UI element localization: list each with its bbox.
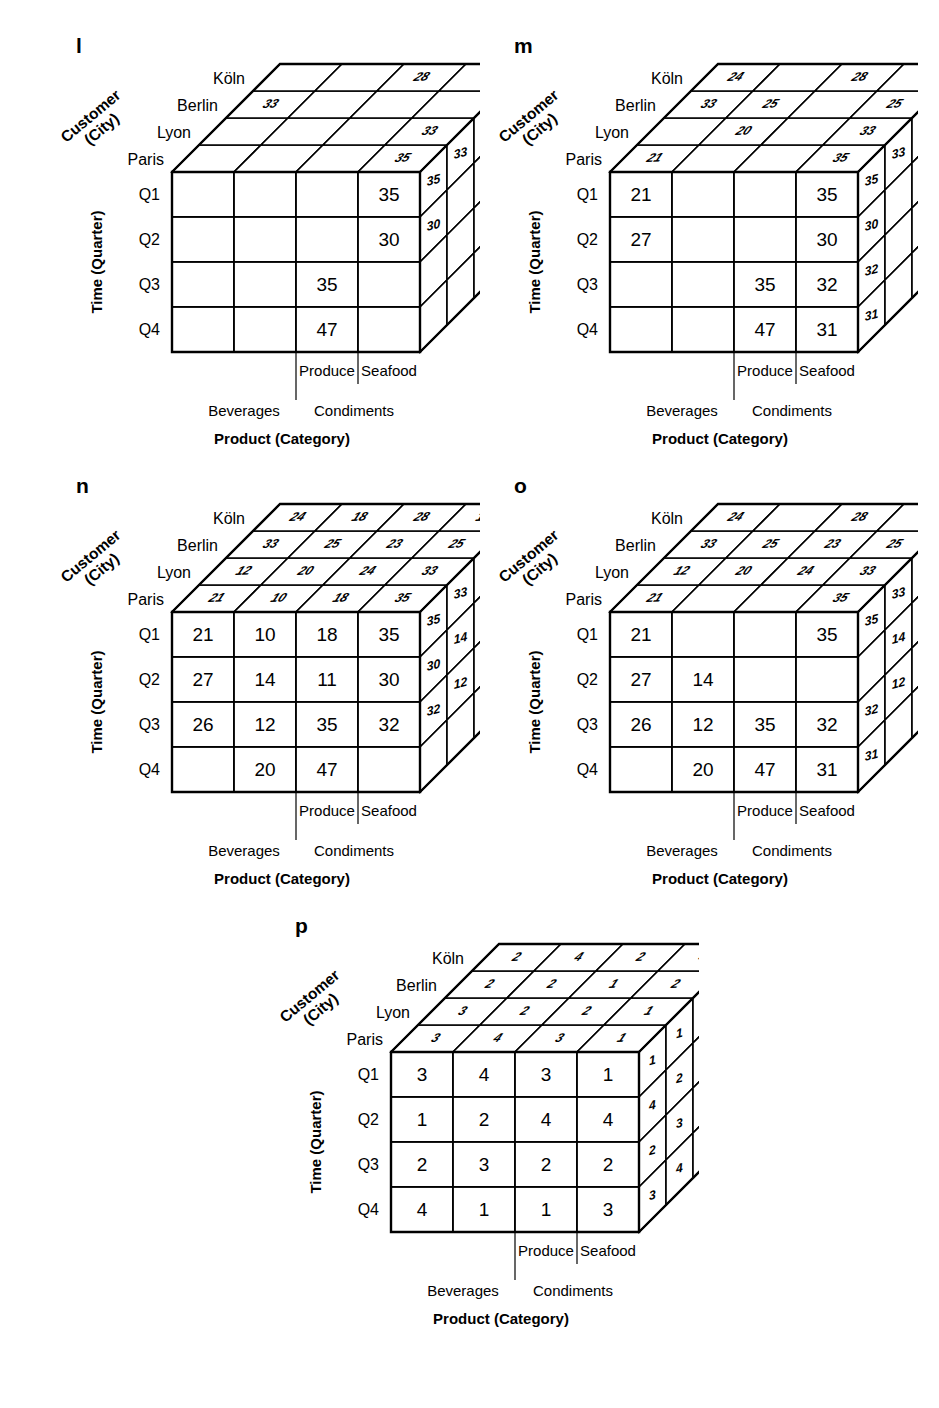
cube-svg-p: 3431322122122424142312342341413134311244… xyxy=(259,912,699,1352)
category-label-condiments: Condiments xyxy=(752,842,832,859)
front-face-value: 4 xyxy=(603,1109,614,1130)
front-cell xyxy=(172,747,234,792)
front-face-value: 27 xyxy=(630,669,651,690)
front-cell xyxy=(734,217,796,262)
front-cell xyxy=(358,307,420,352)
product-dimension-label: Product (Category) xyxy=(652,870,788,887)
front-face-value: 47 xyxy=(316,759,337,780)
front-face-value: 31 xyxy=(816,759,837,780)
category-label-condiments: Condiments xyxy=(314,842,394,859)
quarter-label: Q2 xyxy=(139,671,160,688)
cube-p: 3431322122122424142312342341413134311244… xyxy=(259,912,699,1352)
cube-l: 35333328353033233335303547Q1Q2Q3Q4KölnBe… xyxy=(40,32,480,472)
customer-dimension-label: Customer (City) xyxy=(57,86,134,159)
product-dimension-label: Product (Category) xyxy=(214,870,350,887)
city-label: Köln xyxy=(651,70,683,87)
front-cell xyxy=(172,307,234,352)
front-cell xyxy=(672,172,734,217)
cube-panel-l: l 35333328353033233335303547Q1Q2Q3Q4Köln… xyxy=(40,32,480,472)
quarter-label: Q3 xyxy=(577,716,598,733)
cube-m: 2135203333252524283530323133252320332135… xyxy=(478,32,918,472)
city-label: Paris xyxy=(347,1031,383,1048)
front-face-value: 2 xyxy=(603,1154,614,1175)
category-label-seafood: Seafood xyxy=(799,362,855,379)
front-face-value: 35 xyxy=(378,184,399,205)
category-label-seafood: Seafood xyxy=(361,802,417,819)
product-dimension-label: Product (Category) xyxy=(652,430,788,447)
front-face-value: 47 xyxy=(754,319,775,340)
quarter-label: Q1 xyxy=(139,186,160,203)
city-label: Lyon xyxy=(595,124,629,141)
category-label-produce: Produce xyxy=(737,802,793,819)
category-label-beverages: Beverages xyxy=(646,402,718,419)
quarter-label: Q4 xyxy=(139,321,160,338)
front-face-value: 12 xyxy=(692,714,713,735)
front-face-value: 18 xyxy=(316,624,337,645)
front-face-value: 21 xyxy=(630,624,651,645)
front-cell xyxy=(234,217,296,262)
front-cell xyxy=(358,747,420,792)
quarter-label: Q4 xyxy=(577,321,598,338)
category-label-produce: Produce xyxy=(518,1242,574,1259)
front-cell xyxy=(610,307,672,352)
city-label: Köln xyxy=(213,70,245,87)
city-label: Köln xyxy=(213,510,245,527)
front-face-value: 30 xyxy=(816,229,837,250)
cube-n: 2110183512202433332523252418281435303233… xyxy=(40,472,480,912)
quarter-label: Q1 xyxy=(358,1066,379,1083)
category-label-beverages: Beverages xyxy=(427,1282,499,1299)
front-face-value: 3 xyxy=(603,1199,614,1220)
front-face-value: 20 xyxy=(254,759,275,780)
front-face-value: 14 xyxy=(254,669,276,690)
quarter-label: Q3 xyxy=(577,276,598,293)
front-face-value: 4 xyxy=(541,1109,552,1130)
quarter-label: Q1 xyxy=(577,626,598,643)
quarter-label: Q2 xyxy=(139,231,160,248)
quarter-label: Q1 xyxy=(577,186,598,203)
side-face-value: 2 xyxy=(675,1070,684,1086)
customer-dimension-label: Customer (City) xyxy=(495,526,572,599)
city-label: Paris xyxy=(128,151,164,168)
quarter-label: Q2 xyxy=(577,231,598,248)
city-label: Berlin xyxy=(396,977,437,994)
front-cell xyxy=(610,262,672,307)
front-cell xyxy=(358,262,420,307)
front-face-value: 27 xyxy=(630,229,651,250)
front-face-value: 21 xyxy=(630,184,651,205)
city-label: Berlin xyxy=(177,537,218,554)
front-cell xyxy=(234,262,296,307)
cube-panel-n: n 21101835122024333325232524182814353032… xyxy=(40,472,480,912)
side-face-value: 3 xyxy=(649,1187,657,1203)
front-face-value: 11 xyxy=(317,669,337,690)
side-face-value: 1 xyxy=(676,1025,684,1041)
front-face-value: 2 xyxy=(541,1154,552,1175)
front-cell xyxy=(734,612,796,657)
category-label-condiments: Condiments xyxy=(752,402,832,419)
cube-panel-m: m 21352033332525242835303231332523203321… xyxy=(478,32,918,472)
time-dimension-label: Time (Quarter) xyxy=(307,1090,324,1193)
quarter-label: Q2 xyxy=(358,1111,379,1128)
front-face-value: 31 xyxy=(816,319,837,340)
city-label: Paris xyxy=(128,591,164,608)
quarter-label: Q4 xyxy=(577,761,598,778)
quarter-label: Q1 xyxy=(139,626,160,643)
cube-panel-o: o 21351220243333252325242835323133141225… xyxy=(478,472,918,912)
quarter-label: Q4 xyxy=(139,761,160,778)
cube-o: 2135122024333325232524283532313314122523… xyxy=(478,472,918,912)
front-cell xyxy=(672,217,734,262)
city-label: Lyon xyxy=(157,124,191,141)
cube-svg-n: 2110183512202433332523252418281435303233… xyxy=(40,472,480,912)
front-cell xyxy=(672,262,734,307)
time-dimension-label: Time (Quarter) xyxy=(526,210,543,313)
category-label-condiments: Condiments xyxy=(314,402,394,419)
front-face-value: 30 xyxy=(378,669,399,690)
front-cell xyxy=(172,262,234,307)
front-cell xyxy=(610,747,672,792)
front-face-value: 3 xyxy=(541,1064,552,1085)
category-label-produce: Produce xyxy=(299,362,355,379)
front-cell xyxy=(234,172,296,217)
category-label-beverages: Beverages xyxy=(646,842,718,859)
category-label-beverages: Beverages xyxy=(208,402,280,419)
front-face-value: 1 xyxy=(541,1199,552,1220)
front-face-value: 35 xyxy=(754,714,775,735)
